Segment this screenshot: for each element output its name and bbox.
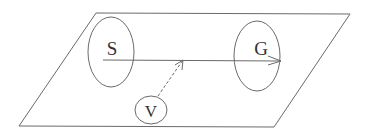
diagram-canvas: S G V	[0, 0, 368, 138]
plane	[19, 13, 350, 127]
edge-v-dashed	[158, 60, 183, 96]
node-g-label: G	[254, 38, 268, 59]
node-v-label: V	[145, 102, 158, 121]
node-s-label: S	[107, 38, 118, 59]
edge-s-to-g	[103, 60, 281, 61]
